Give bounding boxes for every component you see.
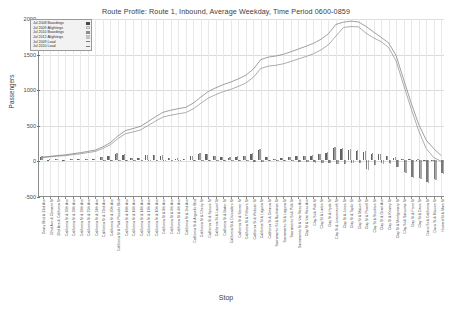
legend-color-swatch	[86, 22, 90, 25]
x-axis-label: Stop	[0, 294, 452, 301]
y-axis-tick-mark	[37, 90, 40, 91]
x-axis-tick-label: Clay St & Grant Ave	[381, 199, 385, 230]
x-axis-tick-label: California St & Octavia St	[269, 199, 273, 239]
x-axis-tick-label: Clay St & Larkin St	[321, 199, 325, 228]
x-axis-tick-label: California St & 2nd Ave	[186, 199, 190, 235]
x-axis-tick-label: California St & Webster St	[254, 199, 258, 240]
y-axis-tick-mark	[37, 197, 40, 198]
y-axis-tick-mark	[37, 161, 40, 162]
x-axis-tick-label: California St & Steiner St	[239, 199, 243, 238]
chart-title: Route Profile: Route 1, Inbound, Average…	[0, 7, 452, 16]
legend-color-swatch	[86, 35, 90, 38]
x-axis-tick-label: California St & Laguna St	[261, 199, 265, 238]
x-axis-tick-label: California St & 4th Ave	[178, 199, 182, 234]
x-axis-tick-label: Sacramento St & Van Ness Ave	[299, 199, 303, 248]
x-axis-tick-label: Sacramento St & Buchanan St	[276, 199, 280, 246]
x-axis-tick-label: California St & Park Presidio Blvd	[118, 199, 122, 251]
x-axis-tick-label: Clay St & Jones St	[344, 199, 348, 228]
x-axis-tick-label: Clay St & Leavenworth St	[336, 199, 340, 239]
x-axis-tick-label: California St & 12th Ave	[148, 199, 152, 236]
x-axis-tick-label: 33rd Ave & California St	[58, 199, 62, 236]
y-axis-tick-label: -500	[25, 194, 36, 200]
y-axis-tick-mark	[37, 55, 40, 56]
x-axis-tick-label: Clay St & Hyde St	[329, 199, 333, 227]
x-axis-tick-label: California St & 8th Ave	[163, 199, 167, 234]
x-axis-tick-label: California St & Fillmore St	[246, 199, 250, 239]
x-axis-tick-label: Sacramento St & Polk St	[291, 199, 295, 238]
x-axis-tick-label: California St & Laurel St	[216, 199, 220, 236]
x-axis-tick-label: Howard St & Main St	[442, 199, 446, 231]
x-axis-tick-label: California St & 30th Ave	[66, 199, 70, 236]
legend-item-label: Jul 2008 Boardings	[33, 21, 85, 25]
x-axis-tick-label: Clay St & Sansome St	[404, 199, 408, 234]
x-axis-tick-label: Clay St & Kearny St	[389, 199, 393, 230]
y-axis-tick-label: 1000	[24, 87, 36, 93]
x-axis-tick-label: Clay St & Montgomery St	[397, 199, 401, 238]
y-axis-tick-label: 500	[27, 123, 36, 129]
legend-item-label: Jul 2009 Load	[33, 40, 85, 44]
legend-item: Jul 2009 Load	[33, 39, 90, 44]
chart-legend: Jul 2008 BoardingsJul 2009 AlightingsJul…	[30, 19, 92, 51]
x-axis-tick-label: California St & Arguello Blvd	[194, 199, 198, 243]
x-axis-tick-label: California St & Baker St	[224, 199, 228, 236]
x-axis-tick-label: Clay St & Taylor St	[351, 199, 355, 228]
x-axis-tick-label: Clay St & Van Ness Ave	[306, 199, 310, 236]
legend-item-label: Jul 2009 Alightings	[33, 26, 85, 30]
legend-line-swatch	[86, 46, 90, 47]
x-axis-tick-label: Sacramento St & Laguna St	[284, 199, 288, 242]
legend-line-swatch	[86, 41, 90, 42]
x-axis-tick-label: California St & 18th Ave	[126, 199, 130, 236]
x-axis-tick-label: California St & 20th Ave	[111, 199, 115, 236]
x-axis-tick-label: California St & Cherry St	[201, 199, 205, 237]
x-axis-tick-label: California St & Spruce St	[209, 199, 213, 238]
x-axis-tick-label: Clay St & Stockton St	[374, 199, 378, 232]
x-axis-tick-label: Clay St & Davis St	[419, 199, 423, 228]
x-axis-tick-label: California St & 28th Ave	[73, 199, 77, 236]
x-axis-tick-label: Clay St & Powell St	[366, 199, 370, 229]
load-line-layer	[39, 19, 445, 197]
chart-page: Route Profile: Route 1, Inbound, Average…	[0, 0, 452, 317]
legend-item-label: Jul 2010 Boardings	[33, 30, 85, 34]
legend-color-swatch	[86, 26, 90, 29]
x-axis-tick-label: California St & 24th Ave	[96, 199, 100, 236]
x-axis-tick-label: Clay St & Mason St	[359, 199, 363, 229]
x-axis-tick-label: California St & 14th Ave	[141, 199, 145, 236]
x-axis-tick-label: California St & 10th Ave	[156, 199, 160, 236]
legend-item: Jul 2009 Alightings	[33, 26, 90, 31]
plot-area: 2000150010005000-500	[38, 19, 444, 197]
x-axis-tick-label: 32nd Ave & Clement St	[51, 199, 55, 235]
x-axis-tick-label: California St & 22nd Ave	[103, 199, 107, 237]
y-axis-tick-label: 1500	[24, 52, 36, 58]
x-axis-tick-label: Davis St & Mission St	[434, 199, 438, 232]
y-axis-label: Passengers	[8, 57, 15, 127]
x-axis-tick-label: Clay St & Front St	[412, 199, 416, 227]
x-axis-tick-label: California St & 6th Ave	[171, 199, 175, 234]
x-axis-tick-label: California St & 26th Ave	[81, 199, 85, 236]
x-axis-tick-label: Clay St & Polk St	[314, 199, 318, 226]
legend-item: Jul 2010 Boardings	[33, 30, 90, 35]
load-line	[43, 27, 441, 162]
legend-item: Jul 2012 Alightings	[33, 35, 90, 40]
y-axis-tick-mark	[37, 126, 40, 127]
x-axis-tick-label: California St & 25th Ave	[88, 199, 92, 236]
legend-item-label: Jul 2010 Load	[33, 44, 85, 48]
legend-color-swatch	[86, 31, 90, 34]
legend-item: Jul 2010 Load	[33, 44, 90, 49]
x-axis-tick-label: California St & 16th Ave	[133, 199, 137, 236]
x-axis-tick-label: Davis St & California St	[427, 199, 431, 235]
x-axis-tick-label: Geary Blvd & 33rd Ave	[43, 199, 47, 234]
legend-item-label: Jul 2012 Alightings	[33, 35, 85, 39]
x-axis-tick-label: California St & Divisadero St	[231, 199, 235, 243]
legend-item: Jul 2008 Boardings	[33, 21, 90, 26]
x-axis-tick-labels: Geary Blvd & 33rd Ave32nd Ave & Clement …	[38, 199, 444, 291]
